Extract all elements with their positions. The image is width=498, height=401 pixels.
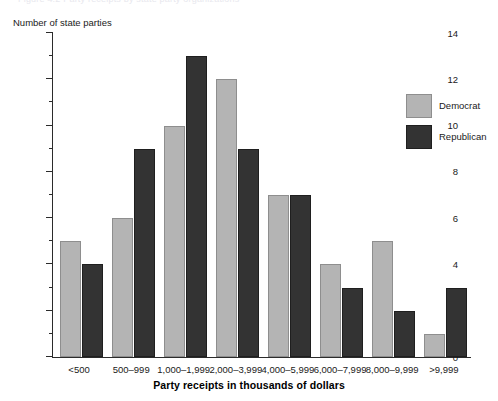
bar-democrat [60,241,81,357]
bar-group [268,33,311,357]
legend-label: Democrat [439,100,480,111]
x-axis-tick-label: 6,000–7,999 [314,364,366,375]
bar-republican [446,288,467,357]
bar-series-container [53,33,470,357]
bar-republican [238,149,259,357]
bar-chart-figure: Number of state parties 02468101214 <500… [0,0,498,401]
legend-label: Republican [439,131,487,142]
x-axis-tick-label: <500 [53,364,105,375]
bar-group [164,33,207,357]
x-axis-tick-label: 8,000–9,999 [366,364,418,375]
bar-democrat [320,264,341,357]
x-axis-tick-label: >9,999 [418,364,470,375]
bar-democrat [268,195,289,357]
bar-group [216,33,259,357]
y-axis-tick [46,217,53,218]
y-axis-tick [46,32,53,33]
x-axis-line [52,357,471,358]
bar-republican [82,264,103,357]
y-axis-tick [46,310,53,311]
x-axis-tick-label: 500–999 [105,364,157,375]
legend-swatch-republican [406,125,432,149]
bar-republican [186,56,207,357]
legend-swatch-democrat [406,94,432,118]
bar-democrat [216,79,237,357]
x-axis-title: Party receipts in thousands of dollars [0,379,498,391]
bar-republican [342,288,363,357]
bar-group [60,33,103,357]
x-axis-tick-label: 2,000–3,999 [209,364,261,375]
x-axis-tick-label: 1,000–1,999 [157,364,209,375]
x-axis-tick-label: 4,000–5,999 [262,364,314,375]
bar-group [372,33,415,357]
bar-democrat [424,334,445,357]
y-axis-tick [46,263,53,264]
plot-area: 02468101214 [53,33,470,357]
bar-republican [290,195,311,357]
y-axis-tick [46,78,53,79]
bar-republican [134,149,155,357]
bar-group [112,33,155,357]
y-axis-tick [46,356,53,357]
y-axis-tick [46,171,53,172]
bar-democrat [372,241,393,357]
bar-democrat [164,126,185,357]
bar-group [424,33,467,357]
bar-group [320,33,363,357]
bar-democrat [112,218,133,357]
y-axis-title: Number of state parties [13,17,112,28]
bar-republican [394,311,415,357]
y-axis-tick [46,125,53,126]
